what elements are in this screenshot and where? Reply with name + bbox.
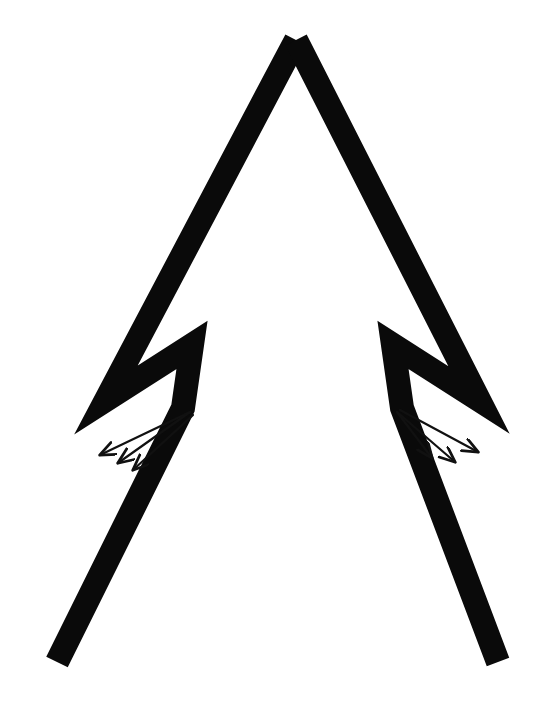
figure-canvas: Barbed arrowhead with outward flow indic… [0,0,540,712]
arrowhead-figure [0,0,540,712]
